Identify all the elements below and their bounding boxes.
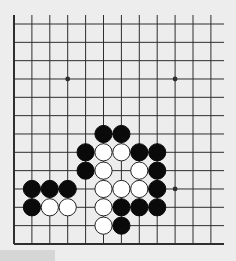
black-stone bbox=[113, 125, 130, 142]
star-point bbox=[65, 77, 70, 82]
white-stone bbox=[95, 162, 112, 179]
white-stone bbox=[95, 144, 112, 161]
white-stone bbox=[59, 199, 76, 216]
black-stone bbox=[41, 180, 58, 197]
white-stone bbox=[113, 180, 130, 197]
black-stone bbox=[23, 199, 40, 216]
black-stone bbox=[131, 199, 148, 216]
black-stone bbox=[23, 180, 40, 197]
black-stone bbox=[149, 144, 166, 161]
white-stone bbox=[95, 217, 112, 234]
white-stone bbox=[131, 180, 148, 197]
black-stone bbox=[59, 180, 76, 197]
white-stone bbox=[95, 180, 112, 197]
scan-artifact bbox=[0, 250, 55, 261]
black-stone bbox=[77, 162, 94, 179]
black-stone bbox=[149, 180, 166, 197]
star-point bbox=[173, 187, 178, 192]
white-stone bbox=[41, 199, 58, 216]
black-stone bbox=[149, 199, 166, 216]
black-stone bbox=[77, 144, 94, 161]
black-stone bbox=[113, 217, 130, 234]
black-stone bbox=[149, 162, 166, 179]
stones-layer bbox=[23, 125, 165, 234]
black-stone bbox=[113, 199, 130, 216]
star-point bbox=[173, 77, 178, 82]
go-board bbox=[0, 0, 236, 261]
white-stone bbox=[113, 144, 130, 161]
white-stone bbox=[95, 199, 112, 216]
black-stone bbox=[131, 144, 148, 161]
black-stone bbox=[95, 125, 112, 142]
white-stone bbox=[131, 162, 148, 179]
